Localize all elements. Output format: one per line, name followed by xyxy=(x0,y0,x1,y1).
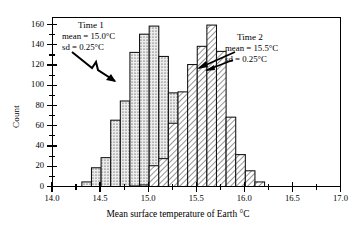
y-tick-mark-inner xyxy=(52,176,55,177)
x-tick-mark-inner xyxy=(172,184,173,187)
y-tick-mark-inner xyxy=(52,24,57,25)
x-axis-title: Mean surface temperature of Earth °C xyxy=(0,209,356,219)
x-tick-mark-inner xyxy=(99,182,100,187)
x-tick-label: 14.5 xyxy=(83,194,117,203)
x-tick-mark-inner xyxy=(244,182,245,187)
y-tick-mark-inner xyxy=(52,64,57,65)
y-tick-label: 20 xyxy=(18,161,44,170)
histogram-bar xyxy=(188,64,198,185)
histogram-bar xyxy=(82,181,92,185)
x-tick-mark xyxy=(244,187,245,193)
x-tick-mark-inner xyxy=(316,184,317,187)
x-tick-mark-inner xyxy=(220,184,221,187)
y-tick-label: 100 xyxy=(18,80,44,89)
annotation-time-1-header: Time 1 xyxy=(62,20,115,31)
annotation-time-2-header: Time 2 xyxy=(225,32,278,43)
histogram-bar xyxy=(245,170,255,185)
histogram-bar xyxy=(255,181,265,185)
annotation-arrow-time-2-icon xyxy=(177,48,239,74)
y-tick-mark-inner xyxy=(52,115,55,116)
annotation-time-1-mean: mean = 15.0°C xyxy=(62,31,115,42)
histogram-bar xyxy=(226,117,236,186)
histogram-bar xyxy=(168,123,178,186)
x-tick-mark xyxy=(196,187,197,193)
x-tick-mark-inner xyxy=(51,182,52,187)
y-tick-mark-inner xyxy=(52,105,57,106)
x-tick-mark-inner xyxy=(340,182,341,187)
y-axis-title: Count xyxy=(11,105,21,128)
y-tick-mark-inner xyxy=(52,145,57,146)
y-tick-label: 80 xyxy=(18,101,44,110)
x-tick-mark-inner xyxy=(124,184,125,187)
x-tick-mark xyxy=(220,187,221,190)
y-tick-mark-inner xyxy=(52,44,57,45)
y-tick-label: 160 xyxy=(18,20,44,29)
x-tick-mark xyxy=(75,187,76,190)
histogram-bar xyxy=(101,157,111,185)
y-tick-mark-inner xyxy=(52,186,57,187)
x-tick-mark xyxy=(124,187,125,190)
x-tick-label: 14.0 xyxy=(35,194,69,203)
x-tick-mark xyxy=(172,187,173,190)
y-tick-label: 120 xyxy=(18,60,44,69)
histogram-bar xyxy=(178,91,188,185)
histogram-bar xyxy=(236,154,246,185)
y-tick-mark-inner xyxy=(52,125,57,126)
histogram-figure: 020406080100120140160 14.014.515.015.516… xyxy=(0,0,356,230)
y-tick-mark-inner xyxy=(52,95,55,96)
y-tick-label: 60 xyxy=(18,121,44,130)
y-tick-mark-inner xyxy=(52,75,55,76)
x-tick-label: 15.0 xyxy=(131,194,165,203)
x-tick-mark xyxy=(51,187,52,193)
y-tick-mark-inner xyxy=(52,166,57,167)
annotation-time-1: Time 1 mean = 15.0°C sd = 0.25°C xyxy=(62,20,115,53)
histogram-bar xyxy=(149,26,159,186)
x-tick-mark-inner xyxy=(148,182,149,187)
y-tick-mark-inner xyxy=(52,85,57,86)
y-tick-label: 0 xyxy=(18,182,44,191)
x-tick-mark-inner xyxy=(268,184,269,187)
y-tick-label: 40 xyxy=(18,141,44,150)
histogram-bar xyxy=(149,165,159,185)
x-tick-label: 15.5 xyxy=(179,194,213,203)
x-tick-mark-inner xyxy=(196,182,197,187)
x-tick-mark xyxy=(292,187,293,193)
histogram-bar xyxy=(111,120,121,186)
y-tick-mark-inner xyxy=(52,34,55,35)
x-tick-mark xyxy=(268,187,269,190)
x-tick-mark xyxy=(148,187,149,193)
histogram-bar xyxy=(130,52,140,186)
x-tick-mark-inner xyxy=(292,182,293,187)
histogram-bar xyxy=(159,158,169,185)
y-tick-mark-inner xyxy=(52,135,55,136)
x-tick-mark xyxy=(316,187,317,190)
histogram-bar xyxy=(140,34,150,186)
histogram-bar xyxy=(120,100,130,185)
y-tick-mark-inner xyxy=(52,54,55,55)
x-tick-mark xyxy=(340,187,341,193)
x-tick-label: 16.0 xyxy=(227,194,261,203)
x-tick-mark-inner xyxy=(75,184,76,187)
y-tick-label: 140 xyxy=(18,40,44,49)
annotation-arrow-time-1-icon xyxy=(70,50,130,90)
x-tick-label: 16.5 xyxy=(275,194,309,203)
x-tick-label: 17.0 xyxy=(324,194,356,203)
y-tick-mark-inner xyxy=(52,156,55,157)
x-tick-mark xyxy=(99,187,100,193)
